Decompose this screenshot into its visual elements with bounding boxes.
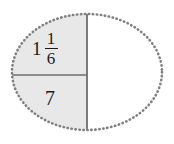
ellipse-diagram-svg (0, 0, 174, 144)
region-upper-left-shaded (0, 0, 87, 75)
diagram-canvas: 1 1 6 7 (0, 0, 174, 144)
